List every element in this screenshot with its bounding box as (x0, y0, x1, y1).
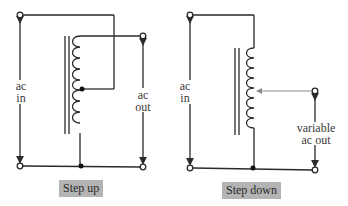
step-down-caption: Step down (222, 182, 281, 199)
step-up-caption: Step up (59, 180, 103, 197)
junction-dot-icon (79, 164, 84, 169)
terminal-icon (140, 164, 146, 170)
terminal-icon (187, 12, 193, 18)
step-down-terminals (187, 12, 318, 173)
step-down-output-label: variable ac out (292, 122, 340, 146)
step-down-input-label: ac in (177, 80, 193, 104)
step-up-output-label: ac out (131, 89, 155, 113)
terminal-icon (17, 12, 23, 18)
tap-arrow-icon (256, 88, 262, 94)
transformer-diagrams (0, 0, 348, 206)
coil-icon (73, 36, 81, 123)
junction-dot-icon (251, 166, 256, 171)
label-line: in (177, 92, 193, 104)
step-down-circuit (190, 15, 315, 170)
terminal-icon (17, 163, 23, 169)
junction-dot-icon (80, 87, 85, 92)
terminal-icon (312, 88, 318, 94)
terminal-icon (140, 33, 146, 39)
label-line: ac out (292, 134, 340, 146)
terminal-icon (187, 165, 193, 171)
label-line: out (131, 101, 155, 113)
label-line: in (13, 92, 29, 104)
terminal-icon (312, 167, 318, 173)
step-up-input-label: ac in (13, 80, 29, 104)
coil-icon (247, 48, 255, 128)
